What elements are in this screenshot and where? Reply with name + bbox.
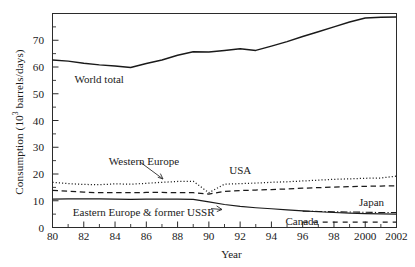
series-line-world-total: [53, 17, 397, 68]
axis-tick-marks: [53, 14, 397, 228]
plot-canvas: [0, 0, 415, 267]
series-line-japan: [303, 211, 397, 212]
series-line-usa: [53, 176, 397, 193]
plot-frame: [53, 14, 397, 228]
annotation-japan: Japan: [359, 197, 384, 208]
series-line-western-europe: [53, 186, 397, 194]
annotation-leader-lines: [140, 162, 222, 212]
annotation-eastern-europe: Eastern Europe & former USSR: [73, 207, 215, 218]
annotation-usa: USA: [229, 165, 251, 176]
annotation-canada: Canada: [285, 216, 318, 227]
annotation-world-total: World total: [74, 74, 124, 85]
data-series-group: [53, 17, 397, 222]
annotation-western-europe: Western Europe: [109, 156, 179, 167]
leader-western-europe-arrow: [158, 174, 163, 179]
oil-consumption-chart: Consumption (103 barrels/days) Year 0102…: [0, 0, 415, 267]
